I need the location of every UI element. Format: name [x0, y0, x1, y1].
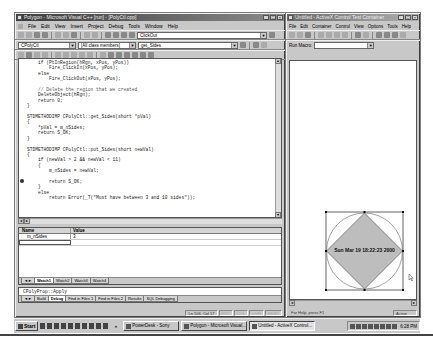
members-combo[interactable]: [All class members] ▼	[78, 42, 136, 49]
minimize-button[interactable]: _	[398, 15, 404, 20]
save-all-icon[interactable]	[42, 32, 48, 38]
properties-icon[interactable]	[376, 32, 382, 38]
save-icon[interactable]	[305, 32, 311, 38]
tray-icon[interactable]	[350, 324, 355, 329]
undo-icon[interactable]	[84, 32, 90, 38]
tab-watch4[interactable]: Watch4	[90, 278, 109, 284]
find-in-files-icon[interactable]	[129, 32, 135, 38]
menu-edit[interactable]: Edit	[300, 24, 308, 29]
quicklaunch-icon[interactable]	[54, 323, 59, 329]
chevron-down-icon[interactable]: ▼	[260, 33, 266, 38]
editor-vertical-scrollbar[interactable]: ▲ ▼	[275, 59, 281, 217]
quicklaunch-icon[interactable]	[96, 323, 101, 329]
task-powerdesk[interactable]: PowerDesk - Sony	[123, 321, 179, 331]
insert-control-icon[interactable]	[355, 32, 361, 38]
canvas-horizontal-scrollbar[interactable]: ◄ ►	[289, 300, 417, 306]
copy-icon[interactable]	[326, 32, 332, 38]
task-visual-cpp[interactable]: Polygon - Microsoft Visual...	[181, 321, 247, 331]
menu-debug[interactable]: Debug	[109, 23, 124, 29]
tray-icon[interactable]	[356, 324, 361, 329]
quicklaunch-icon[interactable]	[61, 323, 66, 329]
tray-icon[interactable]	[386, 324, 391, 329]
title-bar[interactable]: Polygon - Microsoft Visual C++ [run] - […	[16, 14, 284, 21]
polygon-control[interactable]	[290, 61, 417, 300]
close-button[interactable]: ×	[412, 15, 418, 20]
clock[interactable]: 6:28 PM	[400, 324, 417, 329]
menu-project[interactable]: Project	[88, 23, 104, 29]
title-bar[interactable]: Untitled - ActiveX Control Test Containe…	[287, 14, 419, 21]
tab-build[interactable]: Build	[34, 296, 49, 302]
tab-results[interactable]: Results	[125, 296, 144, 302]
quicklaunch-icon[interactable]	[47, 323, 52, 329]
chevron-down-icon[interactable]: ▼	[231, 43, 237, 48]
menu-window[interactable]: Window	[145, 23, 163, 29]
ambient-properties-icon[interactable]	[384, 32, 390, 38]
quicklaunch-icon[interactable]	[103, 323, 108, 329]
design-mode-icon[interactable]	[392, 32, 398, 38]
menu-options[interactable]: Options	[368, 24, 384, 29]
paste-icon[interactable]	[71, 32, 77, 38]
class-combo[interactable]: CPolyCtl ▼	[18, 42, 76, 49]
tab-find-in-files-2[interactable]: Find in Files 2	[95, 296, 126, 302]
minimize-button[interactable]: _	[263, 15, 269, 20]
tray-icon[interactable]	[392, 324, 397, 329]
invoke-methods-icon[interactable]	[363, 32, 369, 38]
quicklaunch-more-icon[interactable]: »	[114, 323, 117, 329]
quicklaunch-icon[interactable]	[82, 323, 87, 329]
quicklaunch-icon[interactable]	[40, 323, 45, 329]
chevron-down-icon[interactable]: ▼	[129, 43, 135, 48]
tab-sql-debugging[interactable]: SQL Debugging	[143, 296, 177, 302]
tray-icon[interactable]	[380, 324, 385, 329]
tab-watch2[interactable]: Watch2	[53, 278, 72, 284]
editor-gutter[interactable]	[19, 59, 25, 217]
menu-insert[interactable]: Insert	[70, 23, 83, 29]
container-canvas[interactable]: Sun Mar 19 18:22:23 2000	[289, 60, 417, 300]
tab-scroll[interactable]: ◄►	[21, 296, 35, 302]
redo-icon[interactable]	[92, 32, 98, 38]
windows-icon[interactable]	[121, 32, 127, 38]
maximize-button[interactable]: □	[405, 15, 411, 20]
output-text[interactable]: CPolyProp::Apply	[19, 288, 281, 294]
compile-icon[interactable]	[261, 42, 267, 48]
menu-tools[interactable]: Tools	[387, 24, 398, 29]
tray-icon[interactable]	[374, 324, 379, 329]
cut-icon[interactable]	[318, 32, 324, 38]
code-editor[interactable]: if (PtInRegion(hRgn, xPos, yPos)) Fire_C…	[18, 58, 282, 218]
output-icon[interactable]	[113, 32, 119, 38]
find-combo[interactable]: ClickOut ▼	[137, 32, 267, 39]
workspace-icon[interactable]	[105, 32, 111, 38]
menu-container[interactable]: Container	[312, 24, 332, 29]
find-icon[interactable]	[269, 32, 275, 38]
start-button[interactable]: Start	[15, 321, 38, 331]
wizard-action-icon[interactable]	[240, 42, 246, 48]
code-text[interactable]: if (PtInRegion(hRgn, xPos, yPos)) Fire_C…	[19, 59, 281, 201]
chevron-down-icon[interactable]: ▼	[69, 43, 75, 48]
menu-view[interactable]: View	[55, 23, 66, 29]
scroll-up-arrow[interactable]: ▲	[275, 58, 281, 64]
open-icon[interactable]	[26, 32, 32, 38]
menu-control[interactable]: Control	[336, 24, 351, 29]
paste-icon[interactable]	[334, 32, 340, 38]
cut-icon[interactable]	[55, 32, 61, 38]
scroll-right-arrow[interactable]: ►	[24, 218, 30, 224]
fullscreen-icon[interactable]	[400, 32, 406, 38]
close-button[interactable]: ×	[277, 15, 283, 20]
editor-horizontal-scrollbar[interactable]: ◄ ►	[18, 218, 282, 224]
menu-file[interactable]: File	[289, 24, 296, 29]
scroll-left-arrow[interactable]: ◄	[289, 300, 295, 306]
tab-watch3[interactable]: Watch3	[71, 278, 90, 284]
watch-row-value[interactable]: 3	[71, 234, 281, 239]
menu-edit[interactable]: Edit	[41, 23, 50, 29]
function-combo[interactable]: get_Sides ▼	[138, 42, 238, 49]
run-macro-combo[interactable]: ▼	[314, 42, 374, 49]
menu-file[interactable]: File	[28, 23, 36, 29]
watch-row-empty[interactable]	[19, 240, 281, 246]
maximize-button[interactable]: □	[270, 15, 276, 20]
task-test-container[interactable]: Untitled - ActiveX Control...	[249, 321, 315, 331]
chevron-down-icon[interactable]: ▼	[367, 43, 373, 48]
watch-column-value[interactable]: Value	[71, 228, 281, 233]
tab-debug[interactable]: Debug	[48, 296, 66, 302]
open-icon[interactable]	[297, 32, 303, 38]
new-text-icon[interactable]	[18, 32, 24, 38]
tab-scroll[interactable]: ◄►	[21, 278, 35, 284]
